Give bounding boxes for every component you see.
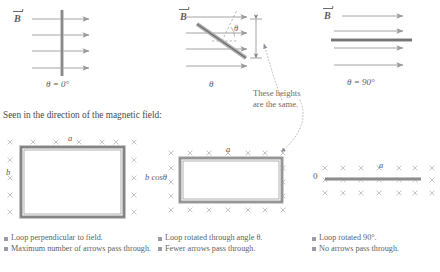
angle-label-panel-2: θ — [209, 80, 213, 89]
height-bracket-tilted — [250, 19, 262, 58]
bullet-icon — [312, 247, 316, 251]
loop-fill-mid — [182, 160, 281, 201]
width-label-mid: a — [226, 145, 230, 154]
physics-figure-magnetic-flux: B θ = 0° B θ θ B θ = 90° These heights a… — [0, 0, 440, 272]
caption-item: Maximum number of arrows pass through. — [4, 244, 154, 255]
caption-text: Maximum number of arrows pass through. — [11, 244, 151, 255]
section-heading: Seen in the direction of the magnetic fi… — [3, 110, 162, 120]
loop-fill-left — [24, 150, 122, 215]
field-label-panel-3: B — [324, 11, 331, 22]
field-label-panel-1: B — [14, 14, 21, 25]
angle-label-panel-3: θ = 90° — [347, 78, 375, 87]
figure-vector-layer — [0, 0, 440, 272]
heights-annotation: These heights are the same. — [253, 88, 301, 109]
angle-label-panel-1: θ = 0° — [46, 80, 69, 89]
panel-theta-90-graphics — [331, 16, 412, 65]
bullet-icon — [4, 247, 8, 251]
caption-text: Loop rotated 90°. — [319, 233, 377, 244]
height-label-left: b — [6, 168, 10, 177]
angle-marker-panel-2: θ — [234, 24, 238, 33]
loop-view-rotated-graphics — [169, 151, 286, 213]
height-label-mid: b cosθ — [145, 173, 167, 182]
caption-text: Fewer arrows pass through. — [165, 244, 256, 255]
panel-theta-general-graphics — [186, 10, 303, 152]
bullet-icon — [312, 237, 316, 241]
caption-item: Fewer arrows pass through. — [158, 244, 306, 255]
caption-item: Loop rotated 90°. — [312, 233, 440, 244]
height-label-right: 0 — [313, 172, 318, 181]
caption-rotated: Loop rotated through angle θ. Fewer arro… — [158, 233, 306, 255]
caption-text: No arrows pass through. — [319, 244, 399, 255]
loop-view-edge-on-graphics — [323, 166, 435, 196]
caption-item: No arrows pass through. — [312, 244, 440, 255]
width-label-right: a — [379, 161, 383, 170]
panel-theta-0-graphics — [32, 10, 89, 76]
caption-edge-on: Loop rotated 90°. No arrows pass through… — [312, 233, 440, 255]
caption-item: Loop rotated through angle θ. — [158, 233, 306, 244]
loop-view-perpendicular-graphics — [8, 140, 137, 217]
caption-text: Loop rotated through angle θ. — [165, 233, 262, 244]
field-label-panel-2: B — [180, 12, 187, 23]
caption-perpendicular: Loop perpendicular to field. Maximum num… — [4, 233, 154, 255]
heights-annotation-line-1: These heights — [253, 88, 301, 98]
caption-item: Loop perpendicular to field. — [4, 233, 154, 244]
caption-text: Loop perpendicular to field. — [11, 233, 103, 244]
bullet-icon — [4, 237, 8, 241]
width-label-left: a — [68, 134, 72, 143]
bullet-icon — [158, 247, 162, 251]
bullet-icon — [158, 237, 162, 241]
heights-annotation-line-2: are the same. — [253, 99, 298, 109]
